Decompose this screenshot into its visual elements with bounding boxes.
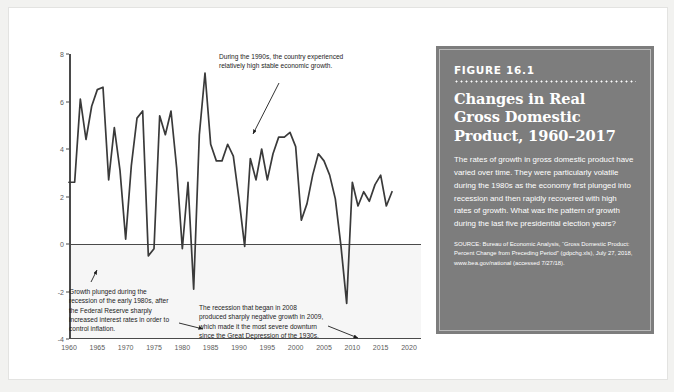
x-tick-label: 2010 <box>345 344 361 351</box>
y-tick-label: 6 <box>60 98 64 105</box>
dotted-divider <box>454 80 636 83</box>
figure-card: -4-202468 196019651970197519801985199019… <box>8 7 668 380</box>
figure-source-citation: SOURCE: Bureau of Economic Analysis, “Gr… <box>454 240 636 269</box>
x-tick-label: 1990 <box>231 344 247 351</box>
figure-caption-panel: FIGURE 16.1 Changes in Real Gross Domest… <box>436 46 654 334</box>
figure-number-label: FIGURE 16.1 <box>454 64 636 76</box>
x-tick-label: 2000 <box>288 344 304 351</box>
x-tick-label: 1980 <box>175 344 191 351</box>
x-tick-label: 1965 <box>90 344 106 351</box>
figure-title: Changes in Real Gross Domestic Product, … <box>454 90 636 145</box>
x-tick-label: 1975 <box>146 344 162 351</box>
figure-page: -4-202468 196019651970197519801985199019… <box>0 0 674 392</box>
x-tick-label: 1970 <box>118 344 134 351</box>
x-tick-label: 2005 <box>316 344 332 351</box>
x-tick-label: 1960 <box>61 344 77 351</box>
y-tick-label: 4 <box>60 146 64 153</box>
y-tick-label: 0 <box>60 241 64 248</box>
annotation-2008-recession: The recession that began in 2008 produce… <box>199 303 326 340</box>
x-tick-label: 2015 <box>373 344 389 351</box>
y-tick-label: 8 <box>60 51 64 58</box>
figure-description: The rates of growth in gross domestic pr… <box>454 154 636 231</box>
annotation-1980s-recession: Growth plunged during the recession of t… <box>69 287 173 334</box>
gdp-line-chart: -4-202468 196019651970197519801985199019… <box>31 38 421 363</box>
annotation-1990s: During the 1990s, the country experience… <box>219 52 369 71</box>
x-tick-label: 1985 <box>203 344 219 351</box>
y-tick-label: -2 <box>58 288 64 295</box>
x-tick-label: 1995 <box>260 344 276 351</box>
y-tick-label: -4 <box>58 336 64 343</box>
figure-caption-inner: FIGURE 16.1 Changes in Real Gross Domest… <box>439 49 651 331</box>
x-tick-label: 2020 <box>401 344 417 351</box>
y-tick-label: 2 <box>60 193 64 200</box>
